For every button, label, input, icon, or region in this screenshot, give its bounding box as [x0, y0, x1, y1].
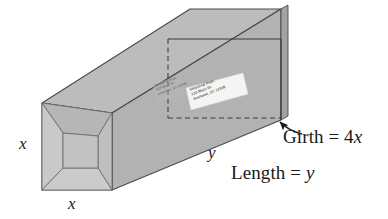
length-equation-variable: y	[306, 162, 315, 183]
dimension-label-x-bottom: x	[68, 195, 76, 212]
box-end-face	[281, 5, 288, 120]
dimension-label-x-left: x	[19, 135, 27, 152]
length-equation-label: Length = y	[231, 163, 314, 182]
girth-equation-prefix: Girth = 4	[283, 126, 354, 147]
girth-equation-variable: x	[354, 126, 363, 147]
dimension-label-y: y	[208, 144, 216, 161]
box-diagram-svg	[0, 0, 388, 219]
girth-equation-label: Girth = 4x	[283, 127, 362, 146]
length-equation-prefix: Length =	[231, 162, 306, 183]
front-flap-center	[63, 133, 98, 168]
figure-container: x x y Girth = 4x Length = y Shipping Dep…	[0, 0, 388, 219]
